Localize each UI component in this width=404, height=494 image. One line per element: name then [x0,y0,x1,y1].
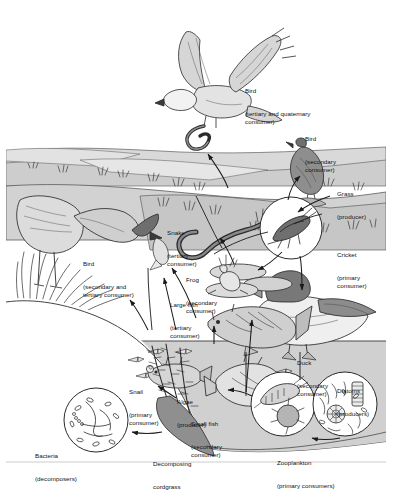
label-name: Diatoms [337,387,369,395]
label-role: (secondary and tertiary consumer) [83,283,134,298]
label-snail: Snail (primary consumer) [129,373,159,441]
label-name: Bird [245,87,311,95]
label-role: (secondary consumer) [191,443,222,458]
label-name: Frog [186,276,217,284]
label-name: Decomposing [153,460,191,468]
label-name: Cricket [337,251,367,259]
label-bird-heron: Bird (secondary and tertiary consumer) [83,245,134,313]
label-role: (tertiary consumer) [170,324,200,339]
label-role: (primary consumers) [277,482,335,490]
label-cricket: Cricket (primary consumer) [337,236,367,304]
label-name: Duck [297,359,328,367]
label-decomposing-cordgrass: Decomposing cordgrass [153,445,191,494]
label-role: (primary consumer) [337,274,367,289]
label-grass: Grass (producer) [337,175,366,236]
label-role: (tertiary and quaternary consumer) [245,110,311,125]
label-name: Bacteria [35,452,77,460]
label-name: Snail [129,388,159,396]
label-name: Snake [167,229,197,237]
label-small-fish: Small fish (secondary consumer) [191,405,222,473]
label-duck: Duck (secondary consumer) [297,344,328,412]
label-bacteria: Bacteria (decomposers) [35,437,77,494]
label-zooplankton: Zooplankton (primary consumers) [277,444,335,494]
label-name: Zooplankton [277,459,335,467]
label-role: (secondary consumer) [305,158,336,173]
label-role: (secondary consumer) [297,382,328,397]
label-large-fish: Large fish (tertiary consumer) [170,286,200,354]
label-diatoms: Diatoms (producers) [337,372,369,433]
label-name: Bird [305,135,336,143]
label-role: cordgrass [153,483,191,491]
label-role: (producers) [337,410,369,418]
label-name: Small fish [191,420,222,428]
label-bird-secondary: Bird (secondary consumer) [305,120,336,188]
label-name: Large fish [170,301,200,309]
label-role: (decomposers) [35,475,77,483]
label-bird-osprey: Bird (tertiary and quaternary consumer) [245,72,311,140]
label-role: (producer) [337,213,366,221]
label-role: (primary consumer) [129,411,159,426]
label-name: Grass [337,190,366,198]
label-name: Bird [83,260,134,268]
